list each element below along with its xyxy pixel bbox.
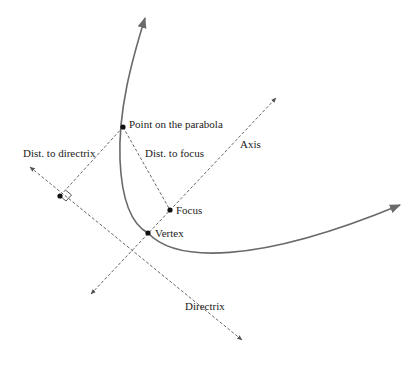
vertex-label: Vertex [155, 227, 184, 239]
axis-label: Axis [240, 138, 261, 150]
directrix-foot-dot [57, 193, 62, 198]
parabola-diagram: Point on the parabola Dist. to directrix… [0, 0, 420, 385]
dist-to-directrix-label: Dist. to directrix [23, 147, 96, 159]
dist-to-focus-label: Dist. to focus [145, 147, 204, 159]
point-on-parabola-label: Point on the parabola [129, 118, 223, 130]
dist-to-focus-segment [123, 127, 170, 210]
focus-label: Focus [176, 204, 202, 216]
dist-to-directrix-segment [60, 127, 123, 196]
vertex-dot [145, 230, 150, 235]
directrix-label: Directrix [185, 300, 225, 312]
focus-dot [167, 207, 172, 212]
parabola-curve [120, 18, 400, 253]
point-on-parabola-dot [120, 124, 125, 129]
